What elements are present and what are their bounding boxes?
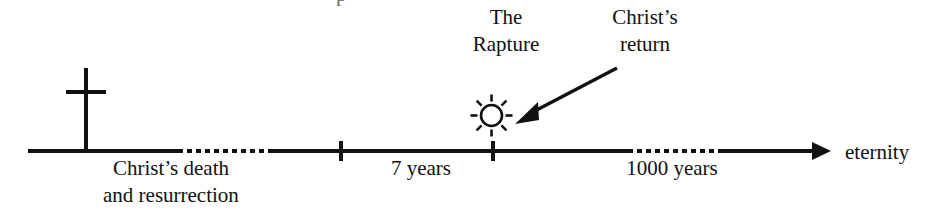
- label-christs-return: Christ’s return: [612, 4, 677, 58]
- label-line-2: return: [612, 31, 677, 58]
- tick-tribulation-start: [339, 141, 343, 161]
- timeline-segment-solid-3: [718, 149, 816, 153]
- label-line-2: and resurrection: [103, 182, 239, 209]
- arrow-pointer-icon: [505, 60, 630, 132]
- timeline-diagram: p: [0, 0, 932, 212]
- timeline-segment-dotted-1: [178, 149, 272, 153]
- label-thousand-years: 1000 years: [626, 156, 718, 181]
- label-line-1: Christ’s: [612, 5, 677, 29]
- label-line-1: Christ’s death: [113, 156, 229, 180]
- label-the-rapture: The Rapture: [473, 4, 539, 58]
- label-eternity: eternity: [845, 140, 909, 165]
- timeline-segment-dotted-2: [628, 149, 721, 153]
- label-seven-years: 7 years: [391, 156, 451, 181]
- timeline-arrowhead-icon: [812, 142, 831, 160]
- label-line-1: The: [490, 5, 523, 29]
- clipped-text-fragment: p: [336, 0, 347, 7]
- label-line-2: Rapture: [473, 31, 539, 58]
- timeline-segment-solid-2: [270, 149, 630, 153]
- cross-bar: [66, 90, 106, 94]
- tick-christs-return: [491, 141, 495, 161]
- cross-icon: [66, 68, 108, 154]
- label-christs-death-and-resurrection: Christ’s death and resurrection: [103, 155, 239, 209]
- cross-stem: [84, 68, 88, 153]
